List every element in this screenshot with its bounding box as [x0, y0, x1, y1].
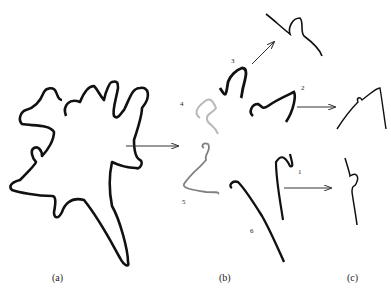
segment-1 [276, 154, 292, 220]
segment-2 [251, 92, 295, 122]
diagram-canvas [0, 0, 391, 301]
segment-number-2: 2 [301, 84, 305, 92]
arrow-3 [252, 42, 274, 64]
segment-6 [230, 182, 284, 262]
matched-piece-2 [337, 88, 386, 129]
panel-label-a: (a) [52, 272, 63, 283]
segment-number-4: 4 [180, 100, 184, 108]
segment-3 [220, 68, 246, 98]
matched-piece-1 [345, 158, 358, 225]
full-contour-outline [10, 81, 148, 265]
segment-number-6: 6 [250, 227, 254, 235]
panel-label-b: (b) [219, 272, 231, 283]
matched-piece-3 [266, 14, 322, 56]
segment-number-1: 1 [298, 168, 302, 176]
segment-4 [197, 100, 218, 134]
segment-number-3: 3 [231, 57, 235, 65]
panel-label-c: (c) [347, 272, 358, 283]
segment-number-5: 5 [182, 198, 186, 206]
segment-5 [184, 143, 219, 194]
